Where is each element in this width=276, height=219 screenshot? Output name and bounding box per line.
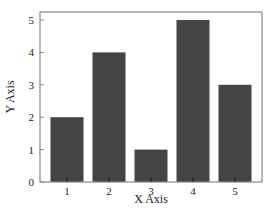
x-tick-label: 4 bbox=[190, 185, 196, 197]
bar-4 bbox=[177, 20, 210, 182]
y-tick-label: 2 bbox=[29, 111, 35, 123]
y-axis-ticks: 012345 bbox=[29, 14, 45, 188]
bar-1 bbox=[51, 117, 84, 182]
y-tick-label: 3 bbox=[29, 79, 35, 91]
bar-5 bbox=[219, 85, 252, 182]
y-tick-label: 5 bbox=[29, 14, 35, 26]
y-tick-label: 1 bbox=[29, 144, 35, 156]
bar-2 bbox=[93, 52, 126, 182]
x-tick-label: 1 bbox=[64, 185, 70, 197]
bars-group bbox=[51, 20, 252, 182]
y-tick-label: 0 bbox=[29, 176, 35, 188]
y-tick-label: 4 bbox=[29, 46, 35, 58]
bar-3 bbox=[135, 150, 168, 182]
bar-chart: 012345 12345 X Axis Y Axis bbox=[0, 0, 276, 219]
x-tick-label: 5 bbox=[232, 185, 238, 197]
x-axis-label: X Axis bbox=[134, 192, 168, 206]
y-axis-label: Y Axis bbox=[3, 80, 17, 114]
x-tick-label: 2 bbox=[106, 185, 112, 197]
